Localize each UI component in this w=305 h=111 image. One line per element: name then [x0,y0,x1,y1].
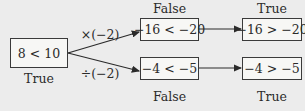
bottom-step1-expression: −4 < −5 [142,61,197,76]
bottom-step1-truth-label: False [140,89,199,104]
bottom-step2-box: −4 > −5 [242,57,302,80]
top-step2-truth-label: True [242,1,302,16]
top-step2-expression: −16 > −20 [236,22,305,37]
top-step1-truth-label: False [140,1,199,16]
top-step1-box: −16 < −20 [140,18,199,41]
bottom-step2-truth-label: True [242,89,302,104]
multiply-operation-label: ×(−2) [80,27,120,42]
start-expression: 8 < 10 [18,46,60,61]
bottom-step2-expression: −4 > −5 [244,61,299,76]
divide-operation-label: ÷(−2) [80,66,120,81]
start-truth-label: True [10,71,68,86]
top-step2-box: −16 > −20 [242,18,302,41]
start-box: 8 < 10 [10,38,68,68]
top-step1-expression: −16 < −20 [134,22,205,37]
bottom-step1-box: −4 < −5 [140,57,199,80]
